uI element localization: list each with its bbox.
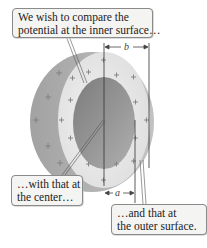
figure-stage: b a We wish to compare the potential at … (0, 0, 207, 248)
a-label: a (115, 187, 120, 198)
callout-text: potential at the inner surface… (18, 24, 147, 37)
callout-text: …and that at (117, 207, 201, 220)
callout-inner-surface: We wish to compare the potential at the … (12, 8, 153, 38)
b-label: b (124, 41, 129, 52)
callout-text: We wish to compare the (18, 11, 147, 24)
callout-text: …with that at (17, 178, 77, 191)
callout-text: the outer surface. (117, 220, 201, 233)
callout-text: the center… (17, 191, 77, 204)
callout-center: …with that at the center… (11, 175, 83, 206)
callout-outer-surface: …and that at the outer surface. (111, 204, 207, 235)
